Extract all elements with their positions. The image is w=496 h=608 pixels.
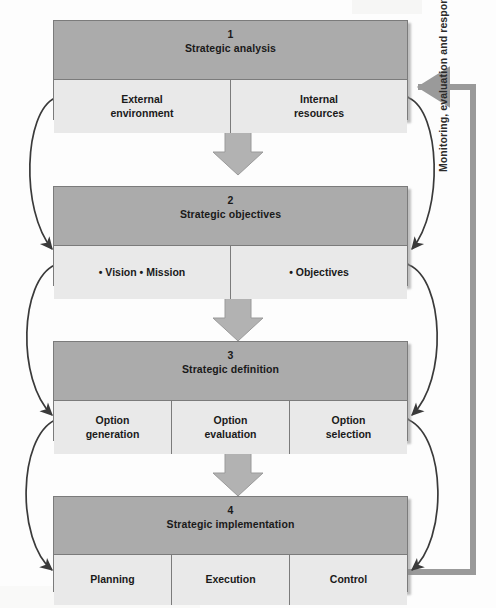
down-arrow-stage3-to-stage4: [213, 447, 263, 496]
stage-1-cell-internal-resources[interactable]: Internal resources: [230, 80, 407, 133]
stage-4-cell-planning[interactable]: Planning: [54, 555, 171, 605]
stage-4-cell-2-line-1: Execution: [205, 573, 255, 587]
curve-right-stage1-stage2: [409, 98, 434, 249]
stage-block-3[interactable]: 3 Strategic definition Option generation…: [53, 341, 408, 441]
stage-block-2[interactable]: 2 Strategic objectives • Vision • Missio…: [53, 186, 408, 286]
down-arrow-stage2-to-stage3: [213, 292, 263, 341]
bullet-glyph-icon: •: [289, 266, 293, 278]
stage-3-cell-1-line-2: generation: [86, 428, 140, 442]
stage-2-cell-vision-mission[interactable]: • Vision • Mission: [54, 246, 230, 299]
stage-1-title: Strategic analysis: [54, 41, 407, 55]
curve-right-stage2-stage3: [409, 265, 437, 415]
feedback-loop-label: Monitoring, evaluation and response: [437, 0, 449, 172]
bullet-glyph-icon: •: [99, 266, 103, 278]
stage-1-number: 1: [54, 27, 407, 41]
stage-2-cell-objectives[interactable]: • Objectives: [230, 246, 407, 299]
stage-3-cell-option-generation[interactable]: Option generation: [54, 401, 171, 454]
stage-1-cell-external-environment[interactable]: External environment: [54, 80, 230, 133]
stage-4-cell-3-line-1: Control: [330, 573, 367, 587]
stage-2-title: Strategic objectives: [54, 207, 407, 221]
bullet-glyph-icon: •: [140, 266, 144, 278]
stage-1-cell-2-line-1: Internal: [294, 93, 344, 107]
stage-2-header: 2 Strategic objectives: [54, 187, 407, 246]
stage-4-number: 4: [54, 503, 407, 517]
stage-2-bullet-objectives: • Objectives: [289, 266, 349, 278]
stage-2-bullet-vision: • Vision: [99, 266, 140, 278]
curve-arrows-right: [409, 98, 438, 570]
stage-4-body: Planning Execution Control: [54, 555, 407, 605]
curve-left-stage2-stage3: [27, 265, 55, 415]
stage-3-header: 3 Strategic definition: [54, 342, 407, 401]
stage-2-bullet-vision-label: Vision: [105, 266, 136, 278]
stage-3-number: 3: [54, 348, 407, 362]
stage-2-number: 2: [54, 193, 407, 207]
stage-3-cell-2-line-2: evaluation: [205, 428, 257, 442]
stage-1-cell-1-line-1: External: [110, 93, 173, 107]
diagram-canvas: 1 Strategic analysis External environmen…: [0, 0, 496, 608]
curve-left-stage1-stage2: [30, 98, 55, 249]
stage-3-cell-option-selection[interactable]: Option selection: [289, 401, 407, 454]
stage-2-body: • Vision • Mission • Objectives: [54, 246, 407, 299]
stage-3-cell-option-evaluation[interactable]: Option evaluation: [171, 401, 289, 454]
stage-3-cell-3-line-2: selection: [326, 428, 372, 442]
curve-left-stage3-stage4: [26, 420, 55, 570]
stage-block-4[interactable]: 4 Strategic implementation Planning Exec…: [53, 496, 408, 592]
stage-block-1[interactable]: 1 Strategic analysis External environmen…: [53, 20, 408, 120]
down-arrow-stage1-to-stage2: [213, 126, 263, 175]
stage-3-cell-2-line-1: Option: [205, 414, 257, 428]
stage-2-bullet-objectives-label: Objectives: [296, 266, 349, 278]
stage-3-cell-3-line-1: Option: [326, 414, 372, 428]
stage-4-title: Strategic implementation: [54, 517, 407, 531]
stage-2-bullet-mission-label: Mission: [146, 266, 185, 278]
stage-1-header: 1 Strategic analysis: [54, 21, 407, 80]
stage-4-cell-1-line-1: Planning: [90, 573, 134, 587]
stage-1-body: External environment Internal resources: [54, 80, 407, 133]
stage-3-cell-1-line-1: Option: [86, 414, 140, 428]
curve-right-stage3-stage4: [409, 420, 438, 570]
stage-4-cell-execution[interactable]: Execution: [171, 555, 289, 605]
stage-3-body: Option generation Option evaluation Opti…: [54, 401, 407, 454]
stage-1-cell-1-line-2: environment: [110, 107, 173, 121]
stage-2-bullet-mission: • Mission: [140, 266, 186, 278]
stage-3-title: Strategic definition: [54, 362, 407, 376]
curve-arrows-left: [26, 98, 55, 570]
stage-4-header: 4 Strategic implementation: [54, 497, 407, 555]
stage-1-cell-2-line-2: resources: [294, 107, 344, 121]
stage-4-cell-control[interactable]: Control: [289, 555, 407, 605]
